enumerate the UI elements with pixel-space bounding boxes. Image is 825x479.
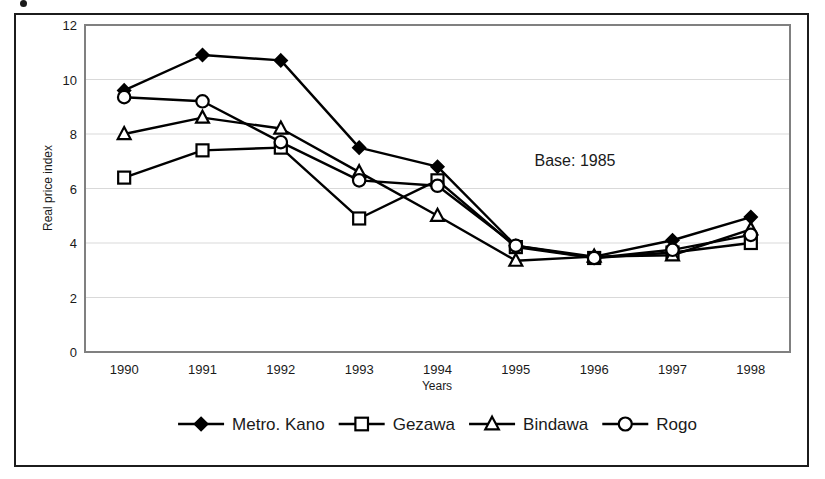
legend-item-bindawa[interactable]: Bindawa [469, 415, 589, 434]
legend-item-gezawa[interactable]: Gezawa [339, 415, 456, 434]
data-point-marker [118, 172, 130, 184]
legend-item-rogo[interactable]: Rogo [602, 415, 697, 434]
x-tick-label: 1996 [580, 362, 609, 377]
data-point-marker [353, 212, 365, 224]
data-point-marker [666, 244, 678, 256]
legend-label: Metro. Kano [232, 415, 325, 434]
y-tick-label: 12 [63, 18, 77, 33]
y-tick-label: 4 [70, 236, 77, 251]
data-point-marker [588, 252, 600, 264]
data-point-marker [510, 240, 522, 252]
x-tick-label: 1991 [188, 362, 217, 377]
figure-root: 024681012 199019911992199319941995199619… [0, 0, 825, 479]
data-point-marker [619, 417, 632, 430]
legend-label: Bindawa [523, 415, 589, 434]
y-axis-tick-labels: 024681012 [63, 18, 77, 360]
x-tick-label: 1998 [736, 362, 765, 377]
data-point-marker [745, 229, 757, 241]
x-tick-label: 1993 [345, 362, 374, 377]
base-year-annotation: Base: 1985 [535, 152, 616, 169]
x-tick-label: 1990 [110, 362, 139, 377]
data-point-marker [195, 418, 208, 431]
y-tick-label: 10 [63, 73, 77, 88]
y-tick-label: 0 [70, 345, 77, 360]
x-tick-label: 1995 [501, 362, 530, 377]
data-point-marker [275, 136, 287, 148]
x-axis-tick-labels: 199019911992199319941995199619971998 [110, 362, 766, 377]
data-point-marker [355, 418, 368, 431]
legend-label: Rogo [656, 415, 697, 434]
line-chart: 024681012 199019911992199319941995199619… [0, 0, 825, 479]
x-tick-label: 1994 [423, 362, 452, 377]
data-point-marker [196, 95, 208, 107]
chart-legend: Metro. KanoGezawaBindawaRogo [178, 415, 697, 434]
legend-item-metro-kano[interactable]: Metro. Kano [178, 415, 325, 434]
data-point-marker [197, 144, 209, 156]
legend-label: Gezawa [393, 415, 456, 434]
data-point-marker [353, 174, 365, 186]
y-axis-title: Real price index [41, 145, 55, 231]
x-tick-label: 1992 [266, 362, 295, 377]
data-point-marker [431, 180, 443, 192]
y-tick-label: 6 [70, 182, 77, 197]
x-axis-title: Years [422, 379, 452, 393]
y-tick-label: 2 [70, 291, 77, 306]
data-point-marker [118, 91, 130, 103]
y-tick-label: 8 [70, 127, 77, 142]
x-tick-label: 1997 [658, 362, 687, 377]
